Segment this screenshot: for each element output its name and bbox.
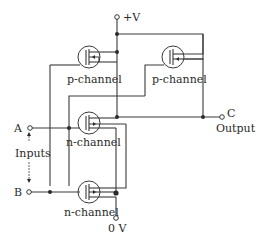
n1-label: n-channel bbox=[66, 136, 121, 149]
p2-drain bbox=[183, 59, 203, 117]
circuit-svg: +V p-channel p-channel C Output bbox=[0, 0, 261, 243]
ground-terminal bbox=[114, 216, 119, 221]
input-a-label: A bbox=[13, 122, 23, 135]
output-terminal bbox=[220, 115, 225, 120]
p1-transistor bbox=[78, 46, 117, 68]
supply-to-p2-b bbox=[183, 34, 203, 59]
ground-junction bbox=[113, 190, 118, 195]
inputs-label: Inputs bbox=[15, 147, 51, 160]
n2-transistor bbox=[78, 181, 116, 203]
supply-to-p2 bbox=[117, 34, 203, 54]
ground-label: 0 V bbox=[108, 222, 127, 235]
output-terminal-label: C bbox=[227, 107, 235, 120]
input-a-terminal bbox=[28, 126, 33, 131]
output-label: Output bbox=[216, 122, 256, 135]
junction bbox=[115, 32, 119, 36]
n1-body-wire bbox=[116, 124, 126, 188]
junction bbox=[67, 126, 71, 130]
n1-transistor bbox=[78, 112, 126, 134]
input-b-terminal bbox=[27, 190, 32, 195]
p1-label: p-channel bbox=[67, 73, 122, 86]
p2-label: p-channel bbox=[152, 73, 207, 86]
n2-label: n-channel bbox=[64, 206, 119, 219]
junction bbox=[48, 190, 52, 194]
p2-transistor bbox=[162, 46, 184, 68]
circuit-diagram: +V p-channel p-channel C Output bbox=[0, 0, 261, 243]
supply-terminal bbox=[115, 15, 120, 20]
output-junction-2 bbox=[201, 115, 205, 119]
input-b-label: B bbox=[14, 186, 22, 199]
supply-label: +V bbox=[123, 11, 141, 24]
